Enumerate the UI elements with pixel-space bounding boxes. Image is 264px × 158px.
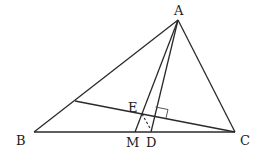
label-C: C: [240, 133, 250, 148]
segment-ED-dashed: [142, 114, 151, 130]
label-D: D: [146, 135, 156, 150]
segment-CF: [75, 101, 235, 132]
geometry-diagram: A B C M D E: [0, 0, 264, 158]
segment-AD: [151, 20, 178, 132]
label-A: A: [173, 3, 184, 18]
label-M: M: [126, 135, 139, 150]
label-E: E: [128, 100, 138, 115]
segment-AC: [178, 20, 235, 132]
label-B: B: [16, 133, 26, 148]
